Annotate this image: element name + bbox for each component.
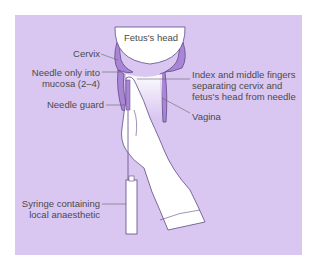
label-needle-guard: Needle guard [30,99,104,110]
label-needle-line1: Needle only into [20,67,100,78]
label-fingers-line3: fetus's head from needle [192,91,296,102]
label-needle-line2: mucosa (2–4) [20,78,100,89]
syringe [126,180,137,234]
label-fingers: Index and middle fingers separating cerv… [192,69,296,102]
label-fingers-line2: separating cervix and [192,80,296,91]
label-syringe-line2: local anaesthetic [18,209,100,220]
label-fingers-line1: Index and middle fingers [192,69,296,80]
label-syringe: Syringe containing local anaesthetic [18,198,100,220]
label-needle-mucosa: Needle only into mucosa (2–4) [20,67,100,89]
needle-guard [126,80,130,110]
label-cervix: Cervix [66,48,100,59]
label-vagina: Vagina [192,111,221,122]
label-syringe-line1: Syringe containing [18,198,100,209]
label-fetus-head: Fetus's head [124,32,178,43]
